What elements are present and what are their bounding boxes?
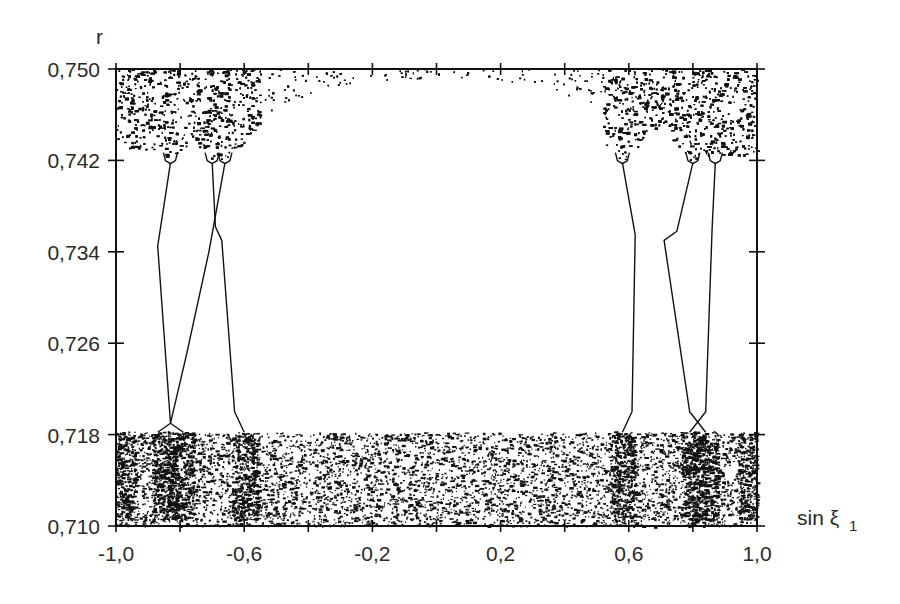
y-tick-label: 0,718 — [47, 424, 100, 447]
right-branch-c — [690, 163, 716, 433]
y-tick-label: 0,726 — [47, 332, 100, 355]
y-axis-label: r — [96, 25, 103, 48]
axis-ticks — [108, 63, 765, 532]
x-axis-label-main: sin ξ — [797, 506, 839, 529]
chaotic-scatter-points — [116, 69, 761, 529]
bifurcation-chart: -1,0-0,6-0,20,20,61,00,7500,7420,7340,72… — [0, 0, 900, 604]
plot-border — [116, 69, 757, 526]
plot-frame — [116, 69, 757, 526]
x-axis-label: sin ξ 1 — [797, 506, 857, 534]
periodic-branch-curves — [158, 153, 723, 433]
left-branch-a — [158, 163, 184, 433]
y-tick-label: 0,742 — [47, 149, 100, 172]
cusp-loop — [708, 153, 722, 164]
right-branch-a — [622, 163, 635, 433]
x-tick-label: 1,0 — [742, 542, 771, 565]
y-tick-label: 0,734 — [47, 241, 100, 264]
x-tick-label: 0,6 — [614, 542, 643, 565]
y-tick-label: 0,750 — [47, 58, 100, 81]
x-tick-label: 0,2 — [486, 542, 515, 565]
x-tick-label: -0,6 — [226, 542, 262, 565]
x-axis-label-subscript: 1 — [849, 517, 857, 534]
right-branch-b — [664, 163, 706, 433]
x-tick-label: -0,2 — [354, 542, 390, 565]
x-tick-label: -1,0 — [98, 542, 134, 565]
y-tick-label: 0,710 — [47, 515, 100, 538]
cusp-loop — [163, 153, 177, 164]
